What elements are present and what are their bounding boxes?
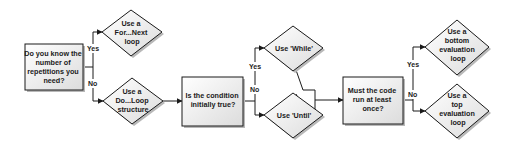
node-bottom-eval-line3: evaluation: [439, 45, 475, 54]
node-until-line1: Use 'Until': [277, 111, 312, 120]
edge-run-once-no: [413, 100, 425, 111]
node-for-next-line1: Use a: [121, 19, 141, 28]
node-bottom-eval-line4: loop: [450, 54, 466, 63]
node-use-top-evaluation: Use a top evaluation loop: [425, 84, 491, 140]
branch2-no-label: No: [250, 86, 259, 93]
node-condition-line1: Is the condition: [185, 91, 238, 100]
node-condition-line2: initially true?: [191, 100, 236, 109]
node-do-loop-line1: Use a: [122, 87, 142, 96]
node-top-eval-line4: loop: [450, 118, 466, 127]
node-while-line1: Use 'While': [275, 44, 313, 53]
node-run-at-least-once: Must the code run at least once?: [343, 77, 405, 126]
branch3-yes-label: Yes: [407, 61, 419, 68]
svg-text:Is the condition initial: Is the condition initially true?: [185, 91, 240, 109]
node-bottom-eval-line1: Use a: [447, 27, 467, 36]
node-use-do-loop: Use a Do...Loop structure: [103, 78, 165, 126]
node-run-once-line2: run at least: [353, 95, 392, 104]
branch2-yes-label: Yes: [249, 63, 261, 70]
node-do-loop-line2: Do...Loop: [115, 96, 149, 105]
node-for-next-line2: For...Next: [115, 28, 148, 37]
svg-text:Use 'While': Use 'While': [275, 44, 313, 53]
node-know-reps-line4: need?: [43, 76, 64, 85]
node-for-next-line3: loop: [124, 37, 140, 46]
node-know-reps-line2: number of: [35, 58, 71, 67]
node-know-repetitions: Do you know the number of repetitions yo…: [24, 44, 85, 92]
node-use-while: Use 'While': [264, 26, 325, 73]
branch1-yes-label: Yes: [87, 45, 99, 52]
node-condition-initially-true: Is the condition initially true?: [182, 77, 245, 128]
node-top-eval-line2: top: [451, 100, 463, 109]
svg-text:Use 'Until': Use 'Until': [277, 111, 312, 120]
node-top-eval-line3: evaluation: [439, 109, 475, 118]
node-use-bottom-evaluation: Use a bottom evaluation loop: [425, 20, 491, 77]
branch1-no-label: No: [88, 80, 97, 87]
loop-selection-flowchart: Yes No Yes No Yes No Do you know the num…: [0, 0, 511, 164]
node-use-for-next: Use a For...Next loop: [102, 10, 164, 58]
node-know-reps-line1: Do you know the: [24, 49, 82, 58]
edge-condition-no: [255, 101, 264, 115]
node-run-once-line1: Must the code: [348, 86, 396, 95]
branch3-no-label: No: [408, 91, 417, 98]
node-know-reps-line3: repetitions you: [27, 67, 79, 76]
node-do-loop-line3: structure: [117, 105, 148, 114]
node-top-eval-line1: Use a: [447, 91, 467, 100]
node-run-once-line3: once?: [362, 104, 383, 113]
node-bottom-eval-line2: bottom: [445, 36, 469, 45]
